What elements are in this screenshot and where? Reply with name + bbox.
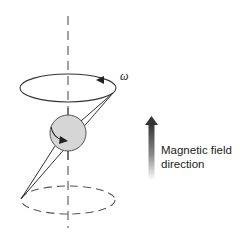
spinning-particle — [50, 115, 86, 151]
diagram-canvas — [0, 0, 240, 238]
spin-axis-upper-segment — [81, 93, 113, 121]
magnetic-field-arrow-icon — [145, 116, 158, 180]
angular-velocity-label: ω — [120, 69, 128, 84]
spin-precession-diagram: ω Magnetic field direction — [0, 0, 240, 238]
magnetic-field-label-line2: direction — [161, 157, 232, 171]
spin-axis-lower-segment — [21, 146, 55, 199]
magnetic-field-label: Magnetic field direction — [161, 143, 232, 171]
magnetic-field-label-line1: Magnetic field — [161, 143, 232, 157]
